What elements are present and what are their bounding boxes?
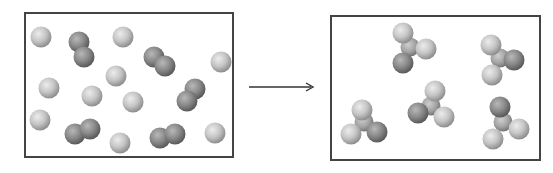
single-atom: [31, 27, 52, 48]
outer-atom: [352, 100, 373, 121]
outer-atom: [393, 23, 414, 44]
reaction-arrow-icon: [249, 83, 313, 91]
product-molecules: [341, 23, 530, 150]
product-molecule: [393, 23, 437, 74]
product-molecule: [408, 81, 455, 128]
outer-atom: [341, 124, 362, 145]
outer-atom: [434, 107, 455, 128]
single-atom: [123, 92, 144, 113]
single-atom: [82, 86, 103, 107]
diatomic-molecule: [150, 124, 186, 149]
single-atom: [39, 78, 60, 99]
atom: [80, 119, 101, 140]
single-atom: [110, 133, 131, 154]
outer-atom: [482, 65, 503, 86]
outer-atom: [367, 122, 388, 143]
atom: [177, 91, 198, 112]
single-atom: [106, 66, 127, 87]
product-molecule: [341, 100, 388, 145]
product-molecule: [483, 97, 530, 150]
reactant-atoms: [30, 27, 232, 154]
atom: [155, 56, 176, 77]
diatomic-molecule: [177, 79, 206, 112]
single-atom: [113, 27, 134, 48]
single-atom: [30, 110, 51, 131]
outer-atom: [483, 129, 504, 150]
outer-atom: [490, 97, 511, 118]
outer-atom: [408, 103, 429, 124]
single-atom: [211, 52, 232, 73]
atom: [74, 47, 95, 68]
outer-atom: [509, 119, 530, 140]
atom: [165, 124, 186, 145]
diatomic-molecule: [69, 32, 95, 68]
outer-atom: [481, 35, 502, 56]
product-molecule: [481, 35, 525, 86]
diatomic-molecule: [65, 119, 101, 145]
single-atom: [205, 123, 226, 144]
outer-atom: [416, 39, 437, 60]
outer-atom: [425, 81, 446, 102]
outer-atom: [504, 50, 525, 71]
diatomic-molecule: [144, 47, 176, 77]
outer-atom: [393, 53, 414, 74]
reaction-diagram: [0, 0, 553, 173]
